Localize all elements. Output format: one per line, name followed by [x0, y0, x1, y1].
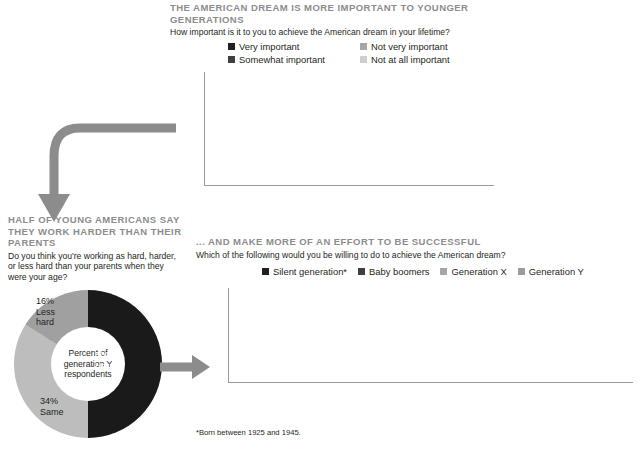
donut-section-subtitle: Do you think you're working as hard, har…	[8, 251, 183, 283]
legend-swatch-not-very-important	[360, 43, 367, 50]
legend-swatch-somewhat-important	[228, 56, 235, 63]
legend-label-somewhat-important: Somewhat important	[239, 54, 325, 65]
top-section-heading: THE AMERICAN DREAM IS MORE IMPORTANT TO …	[170, 2, 500, 38]
legend-swatch-generation-x	[440, 268, 447, 275]
legend-item-not-at-all-important: Not at all important	[360, 54, 450, 65]
bottom-chart-x-axis-line	[228, 382, 633, 383]
legend-label-not-at-all-important: Not at all important	[371, 54, 450, 65]
bottom-chart-y-axis	[196, 284, 224, 382]
legend-label-baby-boomers: Baby boomers	[369, 266, 429, 277]
bottom-section-heading: ... AND MAKE MORE OF AN EFFORT TO BE SUC…	[196, 236, 626, 260]
footnote: *Born between 1925 and 1945.	[196, 428, 301, 437]
legend-item-silent-generation: Silent generation*	[262, 266, 347, 277]
bottom-chart-legend: Silent generation* Baby boomers Generati…	[262, 266, 641, 277]
donut-pct-less-hard: 16%	[36, 296, 54, 306]
legend-label-very-important: Very important	[239, 41, 299, 52]
top-chart-x-axis-line	[204, 185, 494, 186]
legend-item-not-very-important: Not very important	[360, 41, 448, 52]
effort-grouped-chart	[196, 284, 636, 384]
top-section-subtitle: How important is it to you to achieve th…	[170, 27, 500, 38]
top-chart-plot-area	[205, 72, 494, 185]
legend-item-generation-x: Generation X	[440, 266, 506, 277]
legend-label-generation-y: Generation Y	[529, 266, 584, 277]
donut-label-less-hard: 16% Less hard	[36, 296, 70, 328]
top-chart-legend: Very important Not very important Somewh…	[228, 41, 508, 65]
legend-swatch-baby-boomers	[358, 268, 365, 275]
legend-item-baby-boomers: Baby boomers	[358, 266, 429, 277]
legend-swatch-very-important	[228, 43, 235, 50]
legend-label-not-very-important: Not very important	[371, 41, 448, 52]
legend-label-silent-generation: Silent generation*	[273, 266, 347, 277]
donut-pct-harder: 50%	[95, 350, 113, 360]
donut-label-harder: 50% Harder	[95, 350, 123, 371]
legend-swatch-not-at-all-important	[360, 56, 367, 63]
legend-swatch-generation-y	[518, 268, 525, 275]
legend-item-generation-y: Generation Y	[518, 266, 584, 277]
donut-label-same: 34% Same	[40, 396, 64, 417]
donut-section-title: HALF OF YOUNG AMERICANS SAY THEY WORK HA…	[8, 214, 183, 249]
donut-text-harder: Harder	[95, 361, 123, 371]
bottom-section-title: ... AND MAKE MORE OF AN EFFORT TO BE SUC…	[196, 236, 626, 248]
importance-stacked-chart	[170, 66, 500, 188]
donut-section-heading: HALF OF YOUNG AMERICANS SAY THEY WORK HA…	[8, 214, 183, 282]
bottom-section-subtitle: Which of the following would you be will…	[196, 250, 626, 261]
donut-text-less-hard: Less hard	[36, 307, 70, 328]
donut-text-same: Same	[40, 407, 64, 417]
bottom-chart-category-labels	[229, 386, 633, 422]
legend-item-somewhat-important: Somewhat important	[228, 54, 360, 65]
legend-swatch-silent-generation	[262, 268, 269, 275]
top-chart-category-labels	[205, 190, 500, 216]
bottom-chart-plot-area	[229, 288, 633, 382]
legend-item-very-important: Very important	[228, 41, 360, 52]
donut-pct-same: 34%	[40, 396, 58, 406]
legend-label-generation-x: Generation X	[451, 266, 506, 277]
top-section-title: THE AMERICAN DREAM IS MORE IMPORTANT TO …	[170, 2, 500, 25]
